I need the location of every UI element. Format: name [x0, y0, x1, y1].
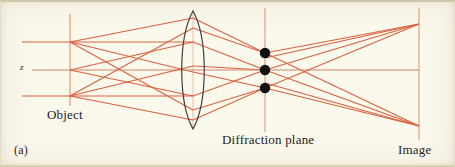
diffraction-plane-label: Diffraction plane [222, 133, 314, 146]
diffraction-order-zero [260, 65, 270, 75]
incoming-rays [22, 42, 70, 96]
diffraction-order-plus-one [260, 48, 270, 58]
panel-label: (a) [14, 144, 28, 156]
diffraction-orders [260, 48, 270, 93]
conv-up-a [193, 18, 265, 53]
img-lowA [265, 24, 419, 88]
ray-mid-down [70, 70, 193, 96]
diffraction-to-image-rays [265, 24, 419, 126]
plane-lines [70, 8, 419, 140]
diffraction-order-minus-one [260, 83, 270, 93]
image-plane-label: Image [398, 143, 431, 156]
img-upB [265, 24, 419, 53]
img-lowB [265, 88, 419, 126]
object-to-lens-rays [70, 18, 193, 120]
axis-label-z: z [20, 63, 24, 72]
object-plane-label: Object [47, 108, 83, 121]
optics-ray-diagram-figure: z Object Diffraction plane Image (a) [0, 0, 455, 167]
conv-low-b [193, 88, 265, 120]
img-midA [265, 24, 419, 70]
img-margA [265, 24, 419, 58]
